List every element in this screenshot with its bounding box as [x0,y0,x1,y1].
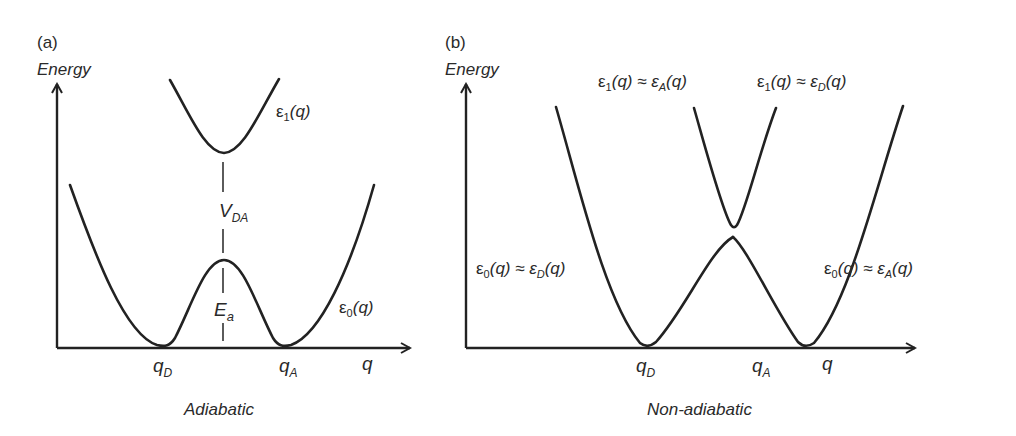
panel-a-y-axis-label: Energy [37,60,92,79]
panel-a: (a) Energy ε1(q) VDA Ea ε0(q) qD qA q Ad… [37,33,410,419]
panel-a-x-axis-label: q [362,353,373,374]
panel-b-caption: Non-adiabatic [647,400,752,419]
panel-b-curve-eps1 [694,108,776,227]
panel-b-qd-tick: qD [636,355,656,380]
panel-b-y-axis-label: Energy [445,60,500,79]
panel-a-eps0-label: ε0(q) [339,298,374,319]
panel-b-x-axis-label: q [822,353,833,374]
figure: (a) Energy ε1(q) VDA Ea ε0(q) qD qA q Ad… [0,0,1016,436]
panel-a-label: (a) [37,33,58,52]
panel-a-curve-eps1 [170,79,279,153]
panel-a-caption: Adiabatic [183,400,254,419]
panel-a-qd-tick: qD [153,355,173,380]
panel-b-curve-eps0-acceptor [733,106,903,346]
panel-b-qa-tick: qA [752,355,771,380]
panel-b: (b) Energy ε1(q) ≈ εA(q) ε1(q) ≈ εD(q) ε… [445,33,915,419]
panel-a-vda-label: VDA [219,200,248,225]
panel-b-eps1-donor-label: ε1(q) ≈ εD(q) [757,72,846,93]
panel-b-eps0-donor-label: ε0(q) ≈ εD(q) [476,259,565,280]
panel-a-eps1-label: ε1(q) [276,102,311,123]
panel-a-ea-label: Ea [214,299,234,324]
panel-a-qa-tick: qA [279,355,298,380]
panel-b-label: (b) [445,33,466,52]
panel-b-eps1-acceptor-label: ε1(q) ≈ εA(q) [598,72,687,93]
panel-b-eps0-acceptor-label: ε0(q) ≈ εA(q) [824,259,913,280]
panel-b-curve-eps0-donor [556,107,733,346]
